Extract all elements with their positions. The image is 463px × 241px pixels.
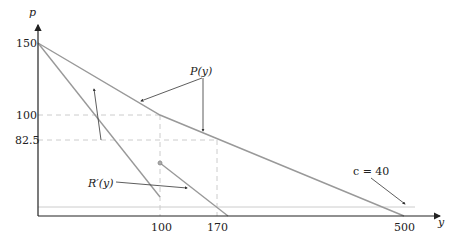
cost-label: c = 40 [353, 165, 389, 178]
x-tick-500: 500 [394, 221, 415, 234]
y-tick-150: 150 [16, 37, 37, 50]
marginal-revenue-segment-2 [160, 163, 228, 216]
x-tick-170: 170 [207, 221, 228, 234]
guide-lines [38, 115, 217, 216]
diagram-canvas: p y 150 100 82.5 100 170 500 P(y) R′(y) … [0, 0, 463, 241]
annotation-arrows [94, 78, 405, 204]
demand-label: P(y) [189, 65, 212, 78]
marginal-revenue-segment-1 [38, 43, 160, 197]
demand-curve [38, 43, 404, 216]
x-axis-label: y [437, 216, 445, 229]
y-tick-100: 100 [16, 109, 37, 122]
x-tick-100: 100 [151, 221, 172, 234]
y-tick-82-5: 82.5 [15, 134, 40, 147]
y-axis-label: p [29, 6, 36, 19]
marginal-revenue-label: R′(y) [87, 177, 114, 190]
open-point-icon [158, 161, 162, 165]
